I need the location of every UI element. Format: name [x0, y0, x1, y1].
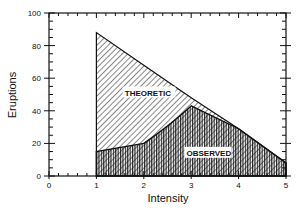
- x-tick-label: 5: [284, 181, 289, 190]
- y-tick-label: 0: [37, 172, 42, 181]
- series-label-observed: OBSERVED: [186, 149, 231, 158]
- x-tick-label: 3: [189, 181, 194, 190]
- y-tick-label: 20: [32, 139, 41, 148]
- area-chart: 020406080100012345 THEORETICOBSERVED Int…: [0, 0, 308, 210]
- series-label-theoretic: THEORETIC: [125, 89, 171, 98]
- x-tick-label: 4: [236, 181, 241, 190]
- x-tick-label: 2: [142, 181, 147, 190]
- y-tick-label: 60: [32, 74, 41, 83]
- y-tick-label: 100: [28, 9, 42, 18]
- x-tick-label: 0: [47, 181, 52, 190]
- y-axis-label: Eruptions: [6, 71, 18, 118]
- x-axis-label: Intensity: [148, 192, 189, 204]
- x-tick-label: 1: [94, 181, 99, 190]
- y-tick-label: 40: [32, 107, 41, 116]
- y-tick-label: 80: [32, 42, 41, 51]
